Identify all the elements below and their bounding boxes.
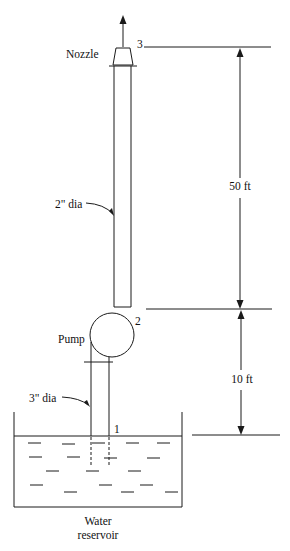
upper-pipe-diameter-label: 2" dia [55,198,82,210]
lower-pipe-leader-arrowhead-icon [84,400,90,407]
nozzle [109,48,137,66]
upper-pipe-leader-arrowhead-icon [109,208,114,216]
water-surface-dashes [28,443,178,492]
point-3-label: 3 [137,38,143,50]
dimension-50ft-label: 50 ft [229,180,251,192]
lower-pipe-diameter-label: 3" dia [29,392,56,404]
pump-label: Pump [58,333,85,346]
dimension-10ft-label: 10 ft [231,373,253,385]
upper-pipe-leader-arrow-icon [86,203,113,214]
water-reservoir [14,412,182,507]
pump [90,313,134,357]
point-2-label: 2 [135,315,141,327]
nozzle-label: Nozzle [66,48,99,60]
dimension-50ft [237,48,244,309]
lower-pipe-leader-arrow-icon [62,397,88,405]
point-1-label: 1 [114,423,120,435]
upper-pipe [114,66,131,307]
reservoir-label-line2: reservoir [78,529,119,541]
pump-system-diagram: Nozzle 3 2" dia Pump 2 3" dia 1 [0,0,290,551]
outflow-arrow-icon [120,15,127,47]
reservoir-label-line1: Water [84,515,111,527]
